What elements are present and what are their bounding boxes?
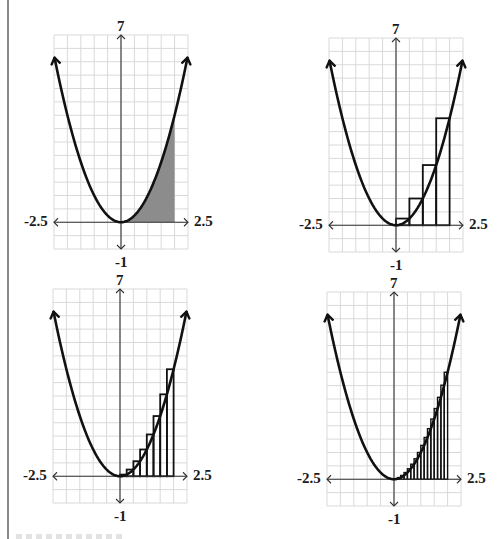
page-margin-rule [7, 0, 9, 539]
y-max-label: 7 [116, 273, 124, 288]
plot-area [53, 289, 187, 503]
y-min-label: -1 [390, 258, 403, 273]
plot-area [329, 38, 463, 252]
x-min-label: -2.5 [23, 468, 47, 483]
y-min-label: -1 [388, 512, 401, 527]
y-min-label: -1 [114, 509, 127, 524]
plot-area [54, 35, 188, 249]
y-min-label: -1 [115, 255, 128, 270]
x-max-label: 2.5 [193, 468, 212, 483]
y-max-label: 7 [117, 19, 125, 34]
x-max-label: 2.5 [467, 471, 486, 486]
cut-off-caption [16, 534, 126, 539]
x-min-label: -2.5 [297, 471, 321, 486]
plot-area [327, 292, 461, 506]
y-max-label: 7 [392, 22, 400, 37]
x-max-label: 2.5 [194, 214, 213, 229]
x-max-label: 2.5 [469, 217, 488, 232]
x-min-label: -2.5 [24, 214, 48, 229]
x-min-label: -2.5 [299, 217, 323, 232]
y-max-label: 7 [390, 276, 398, 291]
